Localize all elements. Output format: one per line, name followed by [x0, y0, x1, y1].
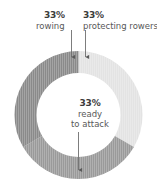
- callout-protecting-rowers: 33% protecting rowers: [83, 10, 157, 31]
- callout-ready-to-attack: 33% ready to attack: [63, 98, 117, 129]
- callout-ready-to-attack-label-line2: to attack: [63, 119, 117, 129]
- callout-rowing-percent: 33%: [44, 10, 65, 21]
- callout-rowing: 33% rowing: [36, 10, 65, 31]
- donut-chart-infographic: 33% rowing 33% protecting rowers 33% rea…: [0, 0, 157, 190]
- callout-ready-to-attack-label-line1: ready: [63, 109, 117, 119]
- callout-ready-to-attack-percent: 33%: [63, 98, 117, 109]
- callout-rowing-label: rowing: [36, 21, 65, 31]
- callout-protecting-rowers-label: protecting rowers: [83, 21, 157, 31]
- callout-protecting-rowers-percent: 33%: [83, 10, 157, 21]
